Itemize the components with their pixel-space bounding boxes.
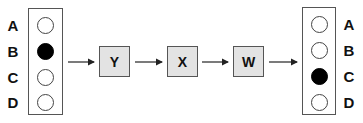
right-label-c: C xyxy=(342,68,356,85)
node-x: X xyxy=(167,46,198,77)
right-circle-c-filled xyxy=(311,68,328,85)
right-circle-d xyxy=(311,94,328,111)
right-label-b: B xyxy=(342,42,356,59)
right-circle-a xyxy=(311,16,328,33)
node-w: W xyxy=(233,46,264,77)
right-circle-b xyxy=(311,42,328,59)
node-y: Y xyxy=(99,46,130,77)
right-panel xyxy=(302,7,336,115)
right-label-a: A xyxy=(342,16,356,33)
right-label-d: D xyxy=(342,94,356,111)
